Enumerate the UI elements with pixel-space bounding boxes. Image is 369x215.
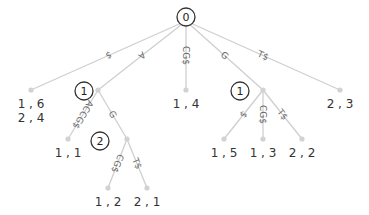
depth-marker-label: 0 — [183, 11, 190, 24]
edge-label: T$ — [274, 106, 289, 122]
depth-marker-label: 2 — [97, 135, 104, 148]
leaf-position-label: 1 , 1 — [55, 146, 82, 160]
edge-label: CG$ — [109, 153, 125, 174]
tree-node — [260, 87, 265, 92]
edge-label: CG$ — [258, 105, 268, 124]
tree-node — [124, 136, 129, 141]
tree-node — [299, 136, 304, 141]
edge-label: T$ — [130, 155, 144, 170]
leaf-position-label: 1 , 4 — [173, 97, 200, 111]
tree-node — [260, 136, 265, 141]
edge-label: $ — [104, 50, 113, 61]
depth-marker-label: 1 — [81, 85, 88, 98]
tree-node — [65, 136, 70, 141]
depth-marker-label: 1 — [237, 85, 244, 98]
leaf-position-label: 2 , 1 — [134, 195, 161, 209]
leaf-position-label: 1 , 2 — [95, 195, 122, 209]
tree-node — [337, 87, 342, 92]
edge-label: T$ — [255, 48, 270, 62]
leaf-position-label: 1 , 6 — [18, 97, 45, 111]
edge-label: A — [136, 50, 148, 62]
edge-label: ACCG$ — [71, 99, 96, 131]
leaf-position-label: 2 , 2 — [289, 146, 316, 160]
tree-node — [144, 185, 149, 190]
edge-label: $ — [238, 109, 249, 120]
suffix-tree-diagram: $ACG$GT$ACCG$GCG$T$$CG$T$ 1 , 62 , 41 , … — [0, 0, 369, 215]
depth-markers-group: 0121 — [75, 8, 249, 150]
edge-label: CG$ — [181, 46, 191, 65]
tree-node — [105, 185, 110, 190]
leaf-position-label: 2 , 4 — [18, 111, 45, 125]
leaf-position-label: 1 , 5 — [211, 146, 238, 160]
leaf-position-label: 1 , 3 — [250, 146, 277, 160]
tree-node — [28, 87, 33, 92]
tree-node — [95, 87, 100, 92]
tree-node — [183, 87, 188, 92]
tree-node — [221, 136, 226, 141]
leaf-labels-group: 1 , 62 , 41 , 42 , 31 , 11 , 22 , 11 , 5… — [18, 97, 354, 209]
edge-label: G — [106, 109, 118, 120]
leaf-position-label: 2 , 3 — [327, 97, 354, 111]
